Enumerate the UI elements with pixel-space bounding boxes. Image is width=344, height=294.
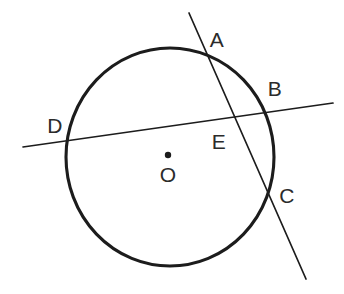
- point-label-a: A: [210, 28, 224, 51]
- secant-line-ac: [189, 13, 306, 279]
- figure-canvas: O A B C D E: [0, 0, 344, 294]
- center-label-o: O: [160, 163, 176, 186]
- point-label-c: C: [279, 184, 295, 207]
- point-label-b: B: [268, 77, 282, 100]
- point-label-d: D: [47, 114, 63, 137]
- center-point-dot: [165, 152, 171, 158]
- geometry-figure: O A B C D E: [0, 0, 344, 294]
- point-label-e: E: [212, 130, 226, 153]
